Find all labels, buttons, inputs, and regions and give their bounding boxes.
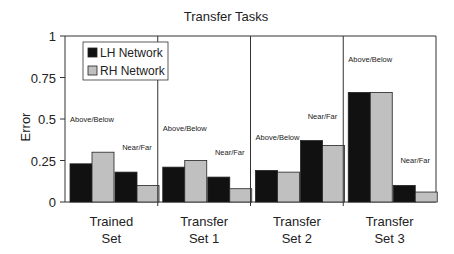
subcategory-label: Near/Far xyxy=(215,148,245,157)
legend-swatch-lh xyxy=(88,48,97,57)
bar-rh xyxy=(415,192,437,202)
bar-lh xyxy=(208,177,230,202)
subcategory-label: Near/Far xyxy=(122,143,152,152)
x-group-label: Transfer xyxy=(366,214,415,229)
bar-lh xyxy=(256,170,278,202)
bar-rh xyxy=(323,146,345,202)
bar-lh xyxy=(115,172,137,202)
y-tick-label: 1 xyxy=(49,29,56,44)
subcategory-label: Above/Below xyxy=(348,55,392,64)
subcategory-label: Near/Far xyxy=(400,156,430,165)
subcategory-label: Above/Below xyxy=(70,115,114,124)
subcategory-label: Above/Below xyxy=(163,124,207,133)
bar-rh xyxy=(137,185,159,202)
x-group-label: Set 2 xyxy=(282,231,312,246)
bar-lh xyxy=(393,185,415,202)
legend-swatch-rh xyxy=(88,66,97,75)
y-tick-label: 0.5 xyxy=(38,112,56,127)
bar-rh xyxy=(230,189,252,202)
x-group-label: Set 1 xyxy=(189,231,219,246)
chart-title: Transfer Tasks xyxy=(184,9,269,24)
bar-rh xyxy=(278,172,300,202)
x-group-label: Set 3 xyxy=(374,231,404,246)
subcategory-label: Above/Below xyxy=(256,133,300,142)
bar-rh xyxy=(370,92,392,202)
x-group-label: Trained xyxy=(90,214,134,229)
bar-lh xyxy=(163,167,185,202)
legend-entry: LH Network xyxy=(100,46,164,60)
x-group-label: Set xyxy=(102,231,122,246)
y-axis-label: Error xyxy=(18,112,33,142)
y-tick-label: 0.75 xyxy=(31,71,56,86)
bar-rh xyxy=(92,152,114,202)
bar-lh xyxy=(70,164,92,202)
subcategory-label: Near/Far xyxy=(308,112,338,121)
x-group-label: Transfer xyxy=(180,214,229,229)
legend-entry: RH Network xyxy=(100,64,166,78)
bar-rh xyxy=(185,161,207,203)
y-tick-label: 0.25 xyxy=(31,154,56,169)
bar-lh xyxy=(348,92,370,202)
bar-chart: Transfer Tasks00.250.50.751ErrorAbove/Be… xyxy=(0,0,454,254)
y-tick-label: 0 xyxy=(49,195,56,210)
bar-lh xyxy=(301,141,323,202)
x-group-label: Transfer xyxy=(273,214,322,229)
